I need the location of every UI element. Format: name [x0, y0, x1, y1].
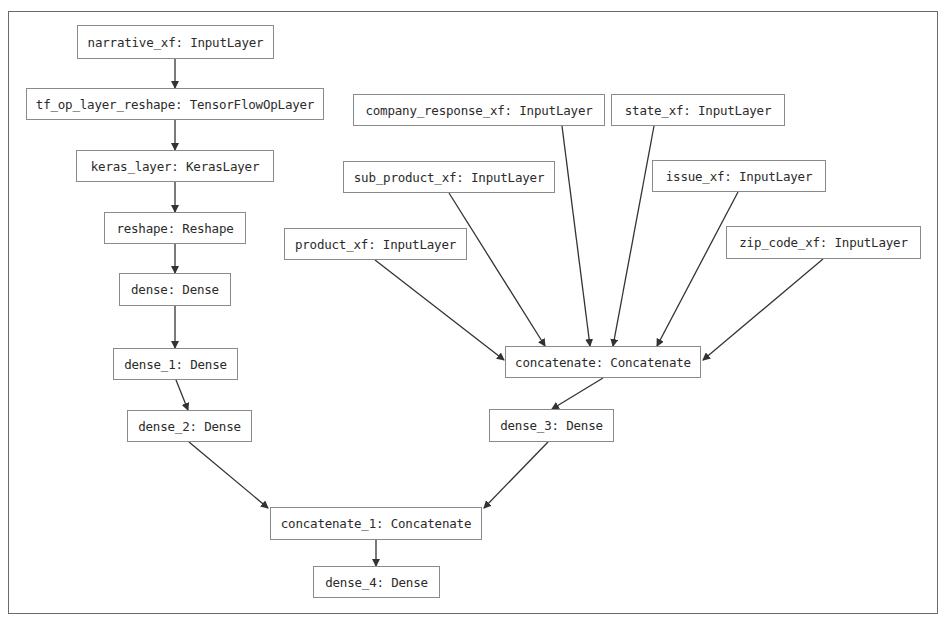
node-concatenate: concatenate: Concatenate: [505, 346, 701, 378]
edge-dense3-to-concat1: [484, 442, 548, 508]
node-dense-1: dense_1: Dense: [113, 348, 238, 380]
node-label: issue_xf: InputLayer: [666, 169, 813, 184]
edge-companyresp-to-concat: [562, 126, 590, 346]
node-label: company_response_xf: InputLayer: [365, 103, 592, 118]
node-label: reshape: Reshape: [116, 221, 233, 236]
edge-dense1-to-dense2: [176, 380, 188, 410]
node-state-xf: state_xf: InputLayer: [611, 94, 785, 126]
node-reshape: reshape: Reshape: [104, 212, 246, 244]
edge-state-to-concat: [613, 126, 654, 346]
node-dense-4: dense_4: Dense: [313, 566, 440, 598]
node-label: state_xf: InputLayer: [625, 103, 772, 118]
node-narrative-xf: narrative_xf: InputLayer: [77, 25, 274, 59]
node-label: narrative_xf: InputLayer: [88, 35, 264, 50]
edge-product-to-concat: [375, 260, 504, 360]
node-concatenate-1: concatenate_1: Concatenate: [270, 507, 482, 540]
node-label: dense_4: Dense: [325, 575, 428, 590]
node-company-response-xf: company_response_xf: InputLayer: [353, 94, 605, 126]
node-label: product_xf: InputLayer: [295, 237, 456, 252]
node-label: dense_1: Dense: [124, 357, 227, 372]
node-label: concatenate_1: Concatenate: [281, 516, 471, 531]
node-label: tf_op_layer_reshape: TensorFlowOpLayer: [36, 97, 314, 112]
node-product-xf: product_xf: InputLayer: [284, 228, 467, 260]
node-keras-layer: keras_layer: KerasLayer: [76, 150, 274, 182]
node-zip-code-xf: zip_code_xf: InputLayer: [726, 226, 921, 259]
edge-issue-to-concat: [657, 192, 738, 346]
node-dense-2: dense_2: Dense: [127, 410, 252, 442]
node-dense: dense: Dense: [119, 273, 231, 306]
node-label: zip_code_xf: InputLayer: [739, 235, 908, 250]
node-label: keras_layer: KerasLayer: [91, 159, 260, 174]
edge-concat-to-dense3: [552, 378, 603, 409]
node-sub-product-xf: sub_product_xf: InputLayer: [343, 161, 555, 193]
node-issue-xf: issue_xf: InputLayer: [652, 160, 826, 192]
node-label: sub_product_xf: InputLayer: [354, 170, 544, 185]
node-label: dense: Dense: [131, 282, 219, 297]
node-label: dense_3: Dense: [500, 418, 603, 433]
node-tf-op-layer-reshape: tf_op_layer_reshape: TensorFlowOpLayer: [26, 88, 324, 120]
node-label: concatenate: Concatenate: [515, 355, 691, 370]
edge-subproduct-to-concat: [449, 193, 545, 346]
edge-zipcode-to-concat: [703, 259, 823, 360]
edge-dense2-to-concat1: [189, 442, 268, 508]
node-dense-3: dense_3: Dense: [489, 409, 614, 442]
node-label: dense_2: Dense: [138, 419, 241, 434]
